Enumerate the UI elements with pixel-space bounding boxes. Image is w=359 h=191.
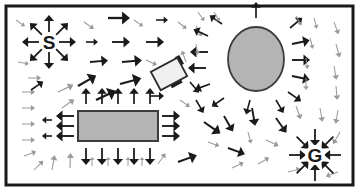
goal-label: G	[308, 145, 323, 166]
rectangle-obstacle	[78, 111, 158, 141]
start-label: S	[43, 32, 56, 53]
ellipse-obstacle	[228, 27, 284, 91]
vector-shaft	[90, 61, 103, 62]
diagram-canvas: SG	[0, 0, 359, 191]
potential-field-svg: SG	[0, 0, 359, 191]
vector-shaft	[122, 61, 137, 62]
